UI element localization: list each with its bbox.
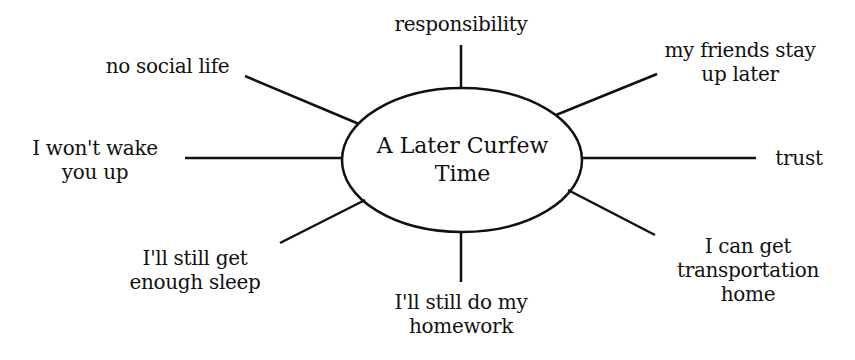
branch-label-sleep: I'll still get enough sleep — [110, 246, 280, 294]
branch-label-homework: I'll still do my homework — [371, 290, 551, 338]
branch-label-responsibility: responsibility — [371, 12, 551, 36]
branch-label-trust: trust — [764, 146, 834, 170]
branch-label-friends: my friends stay up later — [640, 38, 840, 86]
branch-label-social: no social life — [85, 54, 250, 78]
center-topic: A Later Curfew Time — [345, 132, 580, 188]
branch-label-transportation: I can get transportation home — [658, 234, 838, 306]
connector-transportation — [568, 190, 655, 235]
connector-social — [245, 76, 359, 124]
branch-label-wake: I won't wake you up — [10, 136, 180, 184]
center-topic-line2: Time — [345, 160, 580, 188]
connector-sleep — [280, 200, 365, 243]
center-topic-line1: A Later Curfew — [345, 132, 580, 160]
